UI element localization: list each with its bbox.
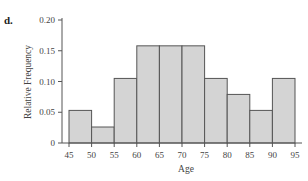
y-tick-label: 0 <box>51 138 56 148</box>
x-tick-label: 55 <box>110 150 120 160</box>
histogram-chart: d. 00.050.100.150.20 4550556065707580859… <box>0 0 308 181</box>
histogram-bar-90-95 <box>272 78 295 143</box>
histogram-bar-50-55 <box>92 127 115 143</box>
y-tick-label: 0.20 <box>39 15 55 25</box>
histogram-bar-65-70 <box>159 46 182 143</box>
x-tick-label: 75 <box>200 150 210 160</box>
x-tick-label: 80 <box>223 150 233 160</box>
histogram-bar-55-60 <box>114 78 137 143</box>
y-tick-label: 0.05 <box>39 107 55 117</box>
y-axis-ticks: 00.050.100.150.20 <box>39 15 62 148</box>
y-tick-label: 0.10 <box>39 77 55 87</box>
histogram-bar-85-90 <box>250 110 273 143</box>
x-axis-ticks: 4550556065707580859095 <box>65 143 301 160</box>
x-tick-label: 60 <box>132 150 142 160</box>
x-tick-label: 50 <box>87 150 97 160</box>
panel-label: d. <box>4 14 13 26</box>
x-tick-label: 90 <box>268 150 278 160</box>
x-tick-label: 95 <box>291 150 301 160</box>
x-tick-label: 70 <box>178 150 188 160</box>
histogram-bar-80-85 <box>227 94 250 143</box>
histogram-bars <box>69 46 295 143</box>
y-tick-label: 0.15 <box>39 46 55 56</box>
histogram-bar-60-65 <box>137 46 160 143</box>
y-axis-title: Relative Frequency <box>23 45 33 119</box>
histogram-bar-70-75 <box>182 46 205 143</box>
x-tick-label: 45 <box>65 150 75 160</box>
histogram-bar-75-80 <box>205 78 228 143</box>
x-tick-label: 65 <box>155 150 165 160</box>
x-axis-title: Age <box>178 164 194 174</box>
x-tick-label: 85 <box>245 150 255 160</box>
histogram-bar-45-50 <box>69 110 92 143</box>
